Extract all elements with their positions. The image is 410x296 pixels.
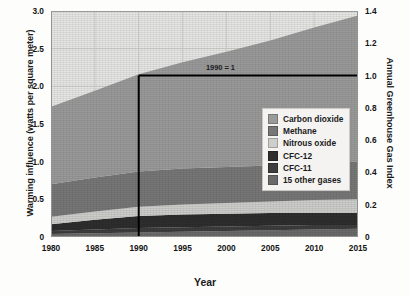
x-tick-2: 1990 <box>119 243 159 253</box>
legend-label-1: Methane <box>283 127 317 135</box>
legend-swatch-icon-4 <box>268 163 278 173</box>
y-tick-left-6: 3.0 <box>14 6 44 16</box>
y-tick-left-2: 1.0 <box>14 157 44 167</box>
y-tick-right-7: 1.4 <box>365 6 395 16</box>
legend-swatch-icon-1 <box>268 126 278 136</box>
y-tick-right-6: 1.2 <box>365 38 395 48</box>
x-tick-0: 1980 <box>31 243 71 253</box>
x-tick-4: 2000 <box>206 243 246 253</box>
legend-label-3: CFC-12 <box>283 152 312 160</box>
legend-item-1[interactable]: Methane <box>268 125 343 137</box>
greenhouse-gas-index-chart: Warming influence (watts per square mete… <box>0 0 410 296</box>
legend-label-0: Carbon dioxide <box>283 115 343 123</box>
x-tick-7: 2015 <box>338 243 378 253</box>
y-tick-left-5: 2.5 <box>14 44 44 54</box>
legend-swatch-icon-3 <box>268 151 278 161</box>
y-tick-right-1: 0.2 <box>365 200 395 210</box>
y-tick-left-1: 0.5 <box>14 194 44 204</box>
x-tick-1: 1985 <box>75 243 115 253</box>
x-tick-6: 2010 <box>294 243 334 253</box>
y-tick-right-5: 1.0 <box>365 71 395 81</box>
y-tick-right-2: 0.4 <box>365 167 395 177</box>
y-tick-right-3: 0.6 <box>365 135 395 145</box>
legend-item-5[interactable]: 15 other gases <box>268 174 343 186</box>
y-tick-left-0: 0 <box>14 232 44 242</box>
chart-legend: Carbon dioxideMethaneNitrous oxideCFC-12… <box>262 108 350 191</box>
x-axis-title: Year <box>51 276 359 288</box>
legend-swatch-icon-2 <box>268 138 278 148</box>
legend-swatch-icon-5 <box>268 175 278 185</box>
y-tick-right-0: 0 <box>365 232 395 242</box>
x-tick-5: 2005 <box>250 243 290 253</box>
legend-label-2: Nitrous oxide <box>283 139 336 147</box>
y-tick-right-4: 0.8 <box>365 103 395 113</box>
y-tick-left-3: 1.5 <box>14 119 44 129</box>
legend-item-3[interactable]: CFC-12 <box>268 150 343 162</box>
legend-swatch-icon-0 <box>268 114 278 124</box>
y-tick-left-4: 2.0 <box>14 81 44 91</box>
legend-item-0[interactable]: Carbon dioxide <box>268 113 343 125</box>
x-tick-3: 1995 <box>163 243 203 253</box>
annotation-1990-equals-1: 1990 = 1 <box>206 63 235 72</box>
legend-label-5: 15 other gases <box>283 176 341 184</box>
legend-item-4[interactable]: CFC-11 <box>268 162 343 174</box>
legend-label-4: CFC-11 <box>283 164 312 172</box>
legend-item-2[interactable]: Nitrous oxide <box>268 137 343 149</box>
